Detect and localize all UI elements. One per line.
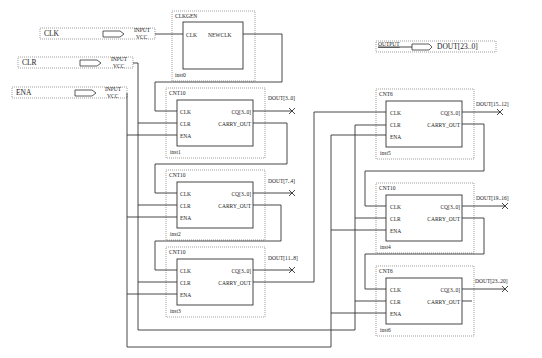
svg-text:CNT6: CNT6 bbox=[379, 268, 393, 274]
output-pin-dout[interactable]: OUTPUT DOUT[23..0] bbox=[376, 41, 496, 52]
svg-text:inst2: inst2 bbox=[170, 231, 181, 237]
svg-text:CQ[3..0]: CQ[3..0] bbox=[440, 204, 460, 210]
svg-text:CLR: CLR bbox=[22, 58, 37, 67]
svg-text:VCC: VCC bbox=[136, 34, 148, 40]
clkgen-block[interactable]: CLKGEN CLK NEWCLK inst0 bbox=[172, 11, 255, 81]
svg-text:DOUT[7..4]: DOUT[7..4] bbox=[268, 178, 295, 184]
svg-text:VCC: VCC bbox=[107, 93, 119, 99]
svg-text:DOUT[3..0]: DOUT[3..0] bbox=[268, 95, 295, 101]
svg-text:ENA: ENA bbox=[180, 215, 191, 221]
svg-text:CLK: CLK bbox=[180, 268, 191, 274]
svg-text:inst0: inst0 bbox=[175, 72, 186, 78]
input-pin-clk[interactable]: CLK INPUT VCC bbox=[40, 27, 155, 40]
output-port-icon bbox=[412, 44, 432, 50]
schematic-canvas: CLK INPUT VCC CLR INPUT VCC ENA INPUT VC… bbox=[0, 0, 542, 358]
svg-text:inst4: inst4 bbox=[380, 244, 391, 250]
input-port-icon bbox=[103, 31, 124, 37]
svg-text:DOUT[23..20]: DOUT[23..20] bbox=[475, 278, 508, 284]
svg-text:ENA: ENA bbox=[16, 88, 32, 97]
svg-text:CNT10: CNT10 bbox=[169, 90, 186, 96]
svg-text:CNT10: CNT10 bbox=[169, 172, 186, 178]
svg-text:CLK: CLK bbox=[390, 110, 401, 116]
svg-text:CLR: CLR bbox=[390, 216, 401, 222]
svg-text:CQ[3..0]: CQ[3..0] bbox=[440, 110, 460, 116]
svg-text:DOUT[11..8]: DOUT[11..8] bbox=[268, 255, 298, 261]
svg-text:ENA: ENA bbox=[180, 292, 191, 298]
svg-text:CLK: CLK bbox=[390, 204, 401, 210]
svg-text:CARRY_OUT: CARRY_OUT bbox=[427, 122, 460, 128]
svg-text:CLK: CLK bbox=[44, 29, 60, 38]
svg-text:INPUT: INPUT bbox=[105, 86, 122, 92]
svg-text:CNT10: CNT10 bbox=[379, 185, 396, 191]
svg-text:DOUT[19..16]: DOUT[19..16] bbox=[476, 195, 509, 201]
svg-text:ENA: ENA bbox=[180, 133, 191, 139]
svg-text:CARRY_OUT: CARRY_OUT bbox=[218, 280, 251, 286]
svg-text:CQ[3..0]: CQ[3..0] bbox=[440, 287, 460, 293]
svg-text:ENA: ENA bbox=[390, 228, 401, 234]
svg-text:DOUT[23..0]: DOUT[23..0] bbox=[437, 42, 478, 51]
input-pin-clr[interactable]: CLR INPUT VCC bbox=[18, 56, 133, 69]
svg-text:DOUT[15..12]: DOUT[15..12] bbox=[476, 101, 509, 107]
svg-text:CARRY_OUT: CARRY_OUT bbox=[427, 299, 460, 305]
svg-text:CLR: CLR bbox=[180, 280, 191, 286]
counter-inst6[interactable]: CNT6 CLK CLR ENA CQ[3..0] CARRY_OUT inst… bbox=[376, 266, 508, 336]
svg-text:inst3: inst3 bbox=[170, 308, 181, 314]
svg-text:CLK: CLK bbox=[390, 287, 401, 293]
svg-text:inst5: inst5 bbox=[380, 150, 391, 156]
svg-text:CLR: CLR bbox=[390, 299, 401, 305]
input-port-icon bbox=[75, 90, 96, 96]
svg-text:CNT10: CNT10 bbox=[169, 249, 186, 255]
svg-text:CLK: CLK bbox=[180, 109, 191, 115]
svg-text:CARRY_OUT: CARRY_OUT bbox=[218, 203, 251, 209]
svg-text:inst6: inst6 bbox=[380, 327, 391, 333]
svg-text:CLKGEN: CLKGEN bbox=[175, 13, 197, 19]
svg-text:CLK: CLK bbox=[186, 32, 197, 38]
svg-text:ENA: ENA bbox=[390, 134, 401, 140]
input-port-icon bbox=[80, 60, 101, 66]
counter-inst5[interactable]: CNT6 CLK CLR ENA CQ[3..0] CARRY_OUT inst… bbox=[376, 89, 509, 159]
svg-text:OUTPUT: OUTPUT bbox=[378, 41, 400, 47]
input-pin-ena[interactable]: ENA INPUT VCC bbox=[12, 86, 127, 99]
svg-text:CLR: CLR bbox=[180, 203, 191, 209]
svg-text:inst1: inst1 bbox=[170, 149, 181, 155]
svg-text:CLR: CLR bbox=[390, 122, 401, 128]
svg-text:VCC: VCC bbox=[113, 63, 125, 69]
svg-text:CLR: CLR bbox=[180, 121, 191, 127]
counter-inst4[interactable]: CNT10 CLK CLR ENA CQ[3..0] CARRY_OUT ins… bbox=[376, 183, 509, 253]
svg-text:CARRY_OUT: CARRY_OUT bbox=[218, 121, 251, 127]
svg-text:CLK: CLK bbox=[180, 191, 191, 197]
svg-text:CARRY_OUT: CARRY_OUT bbox=[427, 216, 460, 222]
svg-text:INPUT: INPUT bbox=[134, 27, 151, 33]
svg-text:CNT6: CNT6 bbox=[379, 91, 393, 97]
svg-text:INPUT: INPUT bbox=[111, 56, 128, 62]
svg-text:NEWCLK: NEWCLK bbox=[208, 32, 232, 38]
svg-text:CQ[3..0]: CQ[3..0] bbox=[231, 109, 251, 115]
svg-text:CQ[3..0]: CQ[3..0] bbox=[231, 268, 251, 274]
svg-text:CQ[3..0]: CQ[3..0] bbox=[231, 191, 251, 197]
svg-text:ENA: ENA bbox=[390, 311, 401, 317]
